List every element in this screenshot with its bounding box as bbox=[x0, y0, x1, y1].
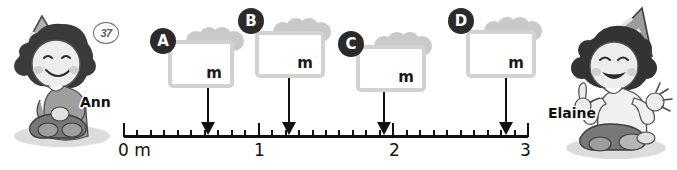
axis-label-3: 3 bbox=[520, 140, 531, 160]
axis-label-0: 0 m bbox=[118, 140, 151, 160]
label-badge-d: D bbox=[448, 8, 474, 34]
label-badge-b-text: B bbox=[245, 12, 256, 30]
tick-minor bbox=[244, 130, 246, 137]
label-badge-c-text: C bbox=[345, 35, 356, 53]
tick-minor bbox=[150, 130, 152, 137]
gift-box-c[interactable]: m bbox=[356, 45, 426, 92]
tick-minor bbox=[163, 130, 165, 137]
tick-minor bbox=[325, 130, 327, 137]
character-name-elaine: Elaine bbox=[548, 105, 596, 121]
tick-major bbox=[527, 123, 529, 137]
tick-minor bbox=[338, 130, 340, 137]
tick-minor bbox=[365, 130, 367, 137]
tick-minor bbox=[433, 130, 435, 137]
tick-major bbox=[123, 123, 125, 137]
answer-box-c[interactable]: m bbox=[356, 45, 426, 92]
girl-kneeling-party-hat-hands-up-icon bbox=[556, 2, 676, 162]
character-elaine bbox=[556, 2, 676, 162]
axis-label-1: 1 bbox=[254, 140, 265, 160]
tick-major bbox=[392, 123, 394, 137]
tick-minor bbox=[514, 130, 516, 137]
unit-label-b: m bbox=[297, 54, 313, 72]
unit-label-c: m bbox=[398, 68, 414, 86]
tick-minor bbox=[231, 130, 233, 137]
tick-minor bbox=[446, 130, 448, 137]
tick-minor bbox=[285, 130, 287, 137]
tick-minor bbox=[487, 130, 489, 137]
tick-minor bbox=[312, 130, 314, 137]
label-badge-d-text: D bbox=[455, 12, 467, 30]
label-badge-c: C bbox=[338, 31, 364, 57]
tick-minor bbox=[473, 130, 475, 137]
axis-label-2: 2 bbox=[389, 140, 400, 160]
tick-minor bbox=[136, 130, 138, 137]
gift-box-d[interactable]: m bbox=[466, 30, 536, 78]
tick-minor bbox=[379, 130, 381, 137]
gift-box-a[interactable]: m bbox=[168, 40, 234, 88]
tick-minor bbox=[217, 130, 219, 137]
tick-minor bbox=[500, 130, 502, 137]
answer-box-b[interactable]: m bbox=[255, 31, 325, 78]
label-badge-a: A bbox=[150, 28, 176, 54]
pointer-stem-d bbox=[505, 78, 507, 128]
girl-kneeling-party-hat-icon bbox=[4, 8, 116, 148]
unit-label-d: m bbox=[508, 54, 524, 72]
gift-box-b[interactable]: m bbox=[255, 31, 325, 78]
worksheet-canvas: 37 bbox=[0, 0, 677, 170]
label-badge-b: B bbox=[238, 8, 264, 34]
character-name-ann: Ann bbox=[80, 94, 111, 110]
tick-minor bbox=[190, 130, 192, 137]
tick-minor bbox=[460, 130, 462, 137]
tick-minor bbox=[419, 130, 421, 137]
answer-box-a[interactable]: m bbox=[168, 40, 234, 88]
tick-minor bbox=[352, 130, 354, 137]
tick-minor bbox=[177, 130, 179, 137]
unit-label-a: m bbox=[206, 64, 222, 82]
tick-minor bbox=[406, 130, 408, 137]
tick-minor bbox=[298, 130, 300, 137]
tick-major bbox=[258, 123, 260, 137]
character-ann bbox=[4, 8, 116, 148]
answer-box-d[interactable]: m bbox=[466, 30, 536, 78]
label-badge-a-text: A bbox=[157, 32, 169, 50]
tick-minor bbox=[271, 130, 273, 137]
tick-minor bbox=[204, 130, 206, 137]
pointer-stem-b bbox=[288, 78, 290, 128]
